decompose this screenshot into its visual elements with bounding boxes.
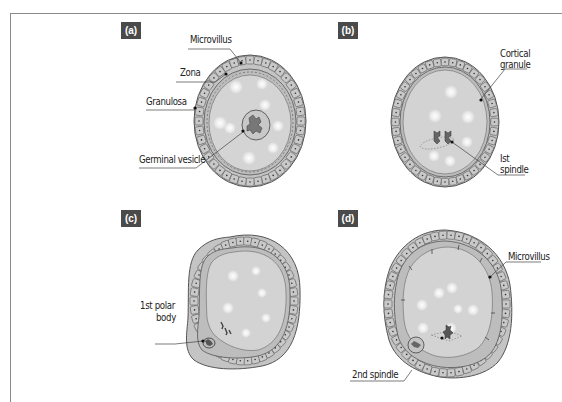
panel-tag-c: (c): [121, 210, 141, 227]
label-second-spindle: 2nd spindle: [352, 369, 398, 380]
label-first-spindle-line2: spindle: [500, 164, 529, 175]
label-cortical-granule-line2: granule: [500, 59, 530, 70]
polar-body-icon: [408, 337, 424, 353]
label-germinal-vesicle: Germinal vesicle: [139, 154, 205, 165]
label-microvillus-a: Microvillus: [190, 34, 232, 45]
label-microvillus-d: Microvillus: [508, 251, 550, 262]
panel-c-oocyte: [155, 235, 300, 369]
panel-tag-a: (a): [121, 22, 141, 39]
label-polar-body-line1: 1st polar: [140, 300, 175, 311]
label-polar-body-line2: body: [156, 312, 176, 323]
panel-tag-b: (b): [338, 22, 358, 39]
panel-tag-d: (d): [338, 210, 358, 227]
label-granulosa: Granulosa: [146, 96, 187, 107]
panel-a-oocyte: [139, 49, 306, 187]
label-first-spindle-line1: Ist: [500, 153, 509, 164]
label-zona: Zona: [180, 67, 201, 78]
first-polar-body-icon: [203, 338, 215, 348]
label-cortical-granule-line1: Cortical: [500, 48, 530, 59]
